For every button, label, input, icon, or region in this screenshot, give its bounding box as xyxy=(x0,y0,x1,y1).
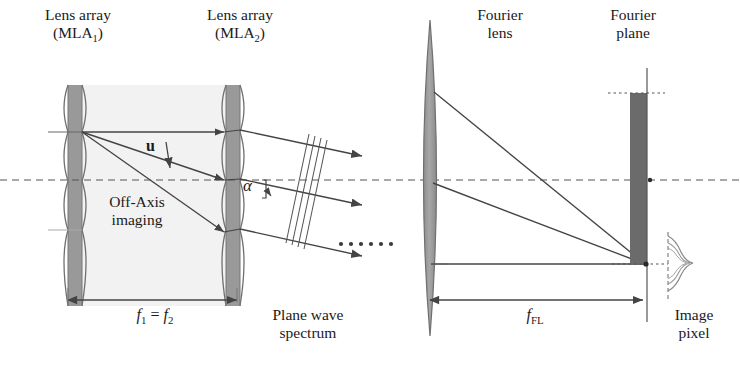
angle-alpha-bracket xyxy=(262,180,271,198)
ray-bundle-right xyxy=(240,130,362,256)
fourier-plane xyxy=(630,68,647,322)
label-plane-wave-spectrum: Plane wave spectrum xyxy=(248,306,368,343)
label-mla1-paren-open: (MLA xyxy=(53,24,93,41)
label-fourier-plane: Fourier plane xyxy=(578,6,688,43)
label-lens-array-mla2: Lens array (MLA2) xyxy=(170,6,310,46)
label-mla1-line1: Lens array xyxy=(8,6,148,24)
label-fourier-lens-line2: lens xyxy=(450,24,550,42)
label-equals-sign: = xyxy=(146,306,163,323)
figure-canvas: Lens array (MLA1) Lens array (MLA2) Four… xyxy=(0,0,740,372)
label-off-axis-line1: Off-Axis xyxy=(82,193,192,211)
label-mla1-line2: (MLA1) xyxy=(8,24,148,46)
ray-bundle-converging xyxy=(431,92,645,264)
label-image-pixel-line1: Image xyxy=(648,306,740,324)
sinc-intensity-profile xyxy=(668,232,693,300)
label-mla2-paren-open: (MLA xyxy=(215,24,255,41)
label-fourier-plane-line1: Fourier xyxy=(578,6,688,24)
label-angle-u: u xyxy=(146,137,155,156)
label-f2-subscript: 2 xyxy=(168,314,173,326)
plane-wave-wavefronts xyxy=(286,134,327,249)
label-angle-alpha: α xyxy=(243,176,252,196)
label-mla2-line2: (MLA2) xyxy=(170,24,310,46)
label-image-pixel-line2: pixel xyxy=(648,324,740,342)
label-focal-length-equality: f1 = f2 xyxy=(100,306,210,327)
ellipsis-dots xyxy=(339,242,393,246)
label-fourier-lens: Fourier lens xyxy=(450,6,550,43)
label-image-pixel: Image pixel xyxy=(648,306,740,343)
label-mla1-paren-close: ) xyxy=(98,24,103,41)
label-mla2-line1: Lens array xyxy=(170,6,310,24)
label-plane-wave-line2: spectrum xyxy=(248,324,368,342)
label-off-axis-line2: imaging xyxy=(82,211,192,229)
label-fourier-lens-line1: Fourier xyxy=(450,6,550,24)
label-fourier-focal-length: fFL xyxy=(490,306,580,327)
label-fourier-plane-line2: plane xyxy=(578,24,688,42)
label-off-axis-imaging: Off-Axis imaging xyxy=(82,193,192,230)
label-mla2-paren-close: ) xyxy=(260,24,265,41)
label-lens-array-mla1: Lens array (MLA1) xyxy=(8,6,148,46)
label-ffl-subscript: FL xyxy=(531,314,544,326)
fourier-lens xyxy=(424,20,437,336)
lens-array-mla2 xyxy=(222,85,244,306)
label-plane-wave-line1: Plane wave xyxy=(248,306,368,324)
